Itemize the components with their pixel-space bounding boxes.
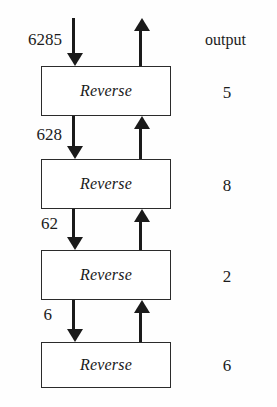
arrow-up-icon-level-4 [139, 300, 142, 342]
reverse-box-level-1: Reverse [41, 66, 171, 116]
input-label-level-3: 62 [0, 214, 58, 234]
reverse-box-level-2: Reverse [41, 159, 171, 209]
reverse-box-label: Reverse [80, 175, 132, 193]
arrow-down-icon-level-1 [72, 18, 75, 66]
input-label-level-4: 6 [0, 305, 52, 325]
arrow-down-icon-level-3 [72, 209, 75, 250]
arrow-up-icon-level-1 [139, 18, 142, 66]
output-column-header: output [205, 31, 246, 49]
output-value-level-2: 8 [205, 176, 249, 196]
reverse-box-label: Reverse [80, 356, 132, 374]
arrow-down-icon-level-4 [72, 300, 75, 342]
reverse-box-level-4: Reverse [41, 342, 171, 388]
input-label-level-1: 6285 [0, 30, 62, 50]
output-value-level-3: 2 [205, 267, 249, 287]
output-value-level-1: 5 [205, 83, 249, 103]
reverse-box-level-3: Reverse [41, 250, 171, 300]
diagram-canvas: output 6285 Reverse 5 628 Reverse 8 62 [0, 0, 277, 407]
arrow-down-icon-level-2 [72, 116, 75, 159]
reverse-box-label: Reverse [80, 266, 132, 284]
arrow-up-icon-level-3 [139, 209, 142, 250]
reverse-box-label: Reverse [80, 82, 132, 100]
input-label-level-2: 628 [0, 125, 62, 145]
arrow-up-icon-level-2 [139, 116, 142, 159]
output-value-level-4: 6 [205, 356, 249, 376]
